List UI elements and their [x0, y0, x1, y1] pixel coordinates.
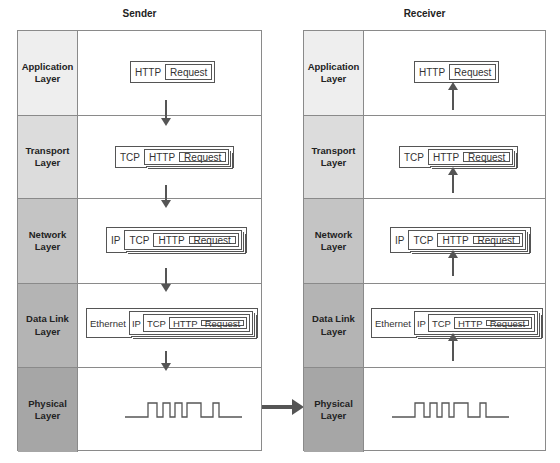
- transmission-arrow-icon: [262, 405, 296, 409]
- receiver-physical-layer: PhysicalLayer: [304, 367, 545, 452]
- square-wave-signal-icon: [392, 400, 510, 420]
- layer-label: PhysicalLayer: [18, 368, 78, 452]
- http-header: HTTP: [415, 62, 449, 82]
- request-payload: Request: [180, 153, 225, 161]
- layer-label: TransportLayer: [304, 116, 364, 198]
- receiver-stack: ApplicationLayer HTTP Request TransportL…: [303, 30, 546, 451]
- pdu-ip-packet: IP TCP HTTP Request: [106, 227, 247, 253]
- arrow-down-icon: [165, 100, 167, 120]
- receiver-application-layer: ApplicationLayer HTTP Request: [304, 31, 545, 115]
- tcp-header: TCP: [409, 231, 437, 249]
- http-header: HTTP: [170, 318, 201, 328]
- pdu-http: HTTP Request: [130, 61, 215, 83]
- http-header: HTTP: [131, 62, 165, 82]
- pdu-ethernet-frame: Ethernet IP TCP HTTP Request: [86, 308, 258, 338]
- layer-label: Data LinkLayer: [18, 284, 78, 367]
- request-payload: Request: [190, 237, 235, 243]
- tcp-header: TCP: [125, 231, 153, 249]
- layer-label: TransportLayer: [18, 116, 78, 198]
- layer-label: Data LinkLayer: [304, 284, 364, 367]
- tcp-header: TCP: [144, 315, 169, 331]
- request-payload: Request: [464, 153, 509, 161]
- arrow-up-icon: [452, 339, 454, 361]
- ip-header: IP: [130, 312, 143, 334]
- receiver-title: Receiver: [303, 8, 546, 19]
- pdu-ip-packet: IP TCP HTTP Request: [390, 227, 531, 253]
- sender-application-layer: ApplicationLayer HTTP Request: [18, 31, 261, 115]
- tcp-header: TCP: [400, 147, 428, 167]
- layer-content: HTTP Request: [78, 31, 261, 115]
- pdu-tcp-segment: TCP HTTP Request: [399, 146, 518, 168]
- arrow-up-icon: [452, 88, 454, 110]
- arrow-up-icon: [452, 173, 454, 193]
- request-payload: Request: [450, 65, 495, 79]
- http-header: HTTP: [429, 150, 463, 164]
- request-payload: Request: [487, 321, 528, 325]
- tcp-header: TCP: [116, 147, 144, 167]
- request-payload: Request: [166, 65, 211, 79]
- arrow-down-icon: [165, 185, 167, 202]
- http-header: HTTP: [145, 150, 179, 164]
- layer-label: NetworkLayer: [304, 199, 364, 283]
- layer-label: NetworkLayer: [18, 199, 78, 283]
- pdu-tcp-segment: TCP HTTP Request: [115, 146, 234, 168]
- pdu-http: HTTP Request: [414, 61, 499, 83]
- sender-data-link-layer: Data LinkLayer Ethernet IP TCP HTTP Requ…: [18, 283, 261, 367]
- sender-network-layer: NetworkLayer IP TCP HTTP Request: [18, 198, 261, 283]
- tcp-header: TCP: [429, 315, 454, 331]
- ip-header: IP: [415, 312, 428, 334]
- arrow-down-icon: [165, 351, 167, 365]
- square-wave-signal-icon: [125, 400, 243, 420]
- sender-transport-layer: TransportLayer TCP HTTP Request: [18, 115, 261, 198]
- sender-title: Sender: [17, 8, 262, 19]
- ip-header: IP: [391, 228, 408, 252]
- request-payload: Request: [474, 237, 519, 243]
- arrow-up-icon: [452, 256, 454, 276]
- ethernet-header: Ethernet: [87, 309, 129, 337]
- layer-label: ApplicationLayer: [18, 31, 78, 115]
- request-payload: Request: [202, 321, 243, 325]
- layer-label: ApplicationLayer: [304, 31, 364, 115]
- http-header: HTTP: [438, 234, 472, 246]
- sender-physical-layer: PhysicalLayer: [18, 367, 261, 452]
- receiver-transport-layer: TransportLayer TCP HTTP Request: [304, 115, 545, 198]
- http-header: HTTP: [455, 318, 486, 328]
- ethernet-header: Ethernet: [372, 309, 414, 337]
- ip-header: IP: [107, 228, 124, 252]
- receiver-data-link-layer: Data LinkLayer Ethernet IP TCP HTTP Requ…: [304, 283, 545, 367]
- arrow-down-icon: [165, 268, 167, 286]
- sender-stack: ApplicationLayer HTTP Request TransportL…: [17, 30, 262, 451]
- layer-label: PhysicalLayer: [304, 368, 364, 452]
- http-header: HTTP: [154, 234, 188, 246]
- receiver-network-layer: NetworkLayer IP TCP HTTP Request: [304, 198, 545, 283]
